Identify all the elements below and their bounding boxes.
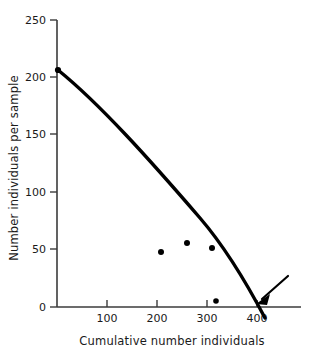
x-tick-label-100: 100 bbox=[97, 312, 118, 325]
y-tick-label-100: 100 bbox=[25, 186, 46, 199]
data-point bbox=[184, 240, 190, 246]
data-point bbox=[55, 67, 61, 73]
data-point bbox=[209, 245, 215, 251]
fitted-depletion-curve bbox=[58, 70, 265, 318]
data-point bbox=[213, 298, 219, 304]
chart-figure: 250 200 150 100 50 0 100 200 300 400 bbox=[0, 0, 319, 359]
y-tick-label-0: 0 bbox=[39, 301, 46, 314]
y-axis-ticks bbox=[50, 20, 57, 307]
y-tick-label-50: 50 bbox=[32, 243, 46, 256]
annotation-arrow bbox=[256, 276, 288, 305]
scatter-points bbox=[55, 67, 219, 304]
y-axis-title: Number individuals per sample bbox=[7, 75, 21, 261]
x-axis-title: Cumulative number individuals bbox=[79, 334, 264, 348]
data-point bbox=[158, 249, 164, 255]
arrow-head-icon bbox=[256, 294, 270, 305]
x-tick-label-200: 200 bbox=[147, 312, 168, 325]
x-axis-ticks bbox=[107, 300, 257, 307]
x-tick-label-300: 300 bbox=[197, 312, 218, 325]
y-tick-label-200: 200 bbox=[25, 71, 46, 84]
y-tick-label-150: 150 bbox=[25, 128, 46, 141]
depletion-scatter-plot: 250 200 150 100 50 0 100 200 300 400 bbox=[0, 0, 319, 359]
y-tick-label-250: 250 bbox=[25, 14, 46, 27]
